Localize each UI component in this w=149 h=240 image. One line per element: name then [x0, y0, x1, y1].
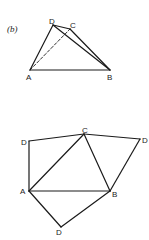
vertex-label-c: C: [82, 126, 88, 135]
edge-a-d3: [29, 191, 61, 227]
vertex-label-c: C: [70, 21, 76, 30]
edge-c-b: [70, 29, 110, 70]
edge-a-c: [29, 134, 84, 191]
diagram-canvas: (b) A B C D A B C D D D: [0, 0, 149, 240]
edge-d2-b: [110, 139, 140, 191]
edge-a-c-dashed: [30, 29, 70, 70]
edge-d3-b: [61, 191, 110, 227]
edge-c-b: [84, 134, 110, 191]
figure-b: (b) A B C D: [7, 17, 112, 82]
figure-unfolded: A B C D D D: [20, 126, 148, 237]
vertex-label-b: B: [112, 190, 117, 199]
edge-d-b: [53, 25, 110, 70]
vertex-label-d-right: D: [142, 136, 148, 145]
vertex-label-a: A: [20, 187, 26, 196]
edge-a-d: [30, 25, 53, 70]
vertex-label-d: D: [49, 17, 55, 26]
vertex-label-a: A: [26, 73, 32, 82]
vertex-label-d-left: D: [21, 138, 27, 147]
edge-d1-c: [29, 134, 84, 141]
vertex-label-d-bottom: D: [56, 228, 62, 237]
figure-caption: (b): [7, 24, 18, 34]
edge-c-d2: [84, 134, 140, 139]
vertex-label-b: B: [107, 73, 112, 82]
